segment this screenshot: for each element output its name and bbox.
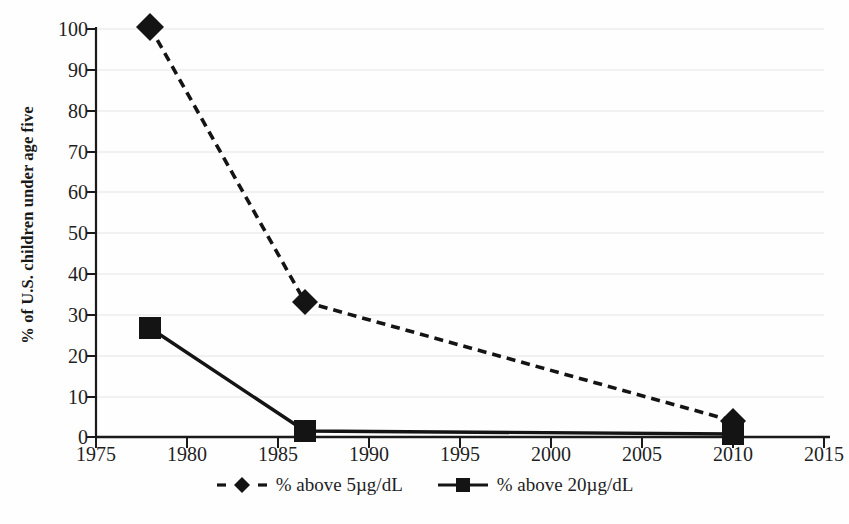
gridlines <box>96 29 824 397</box>
y-axis-line <box>87 27 96 438</box>
data-point-diamond <box>136 13 164 41</box>
series-above-5 <box>136 13 746 434</box>
legend-label-above-5: % above 5µg/dL <box>276 474 403 496</box>
x-tick-1990: 1990 <box>349 443 389 466</box>
data-point-square <box>294 420 316 442</box>
x-tick-1995: 1995 <box>440 443 480 466</box>
legend-label-above-20: % above 20µg/dL <box>497 474 634 496</box>
data-point-diamond <box>292 289 318 315</box>
series-above-20 <box>139 317 744 445</box>
x-tick-1975: 1975 <box>76 443 116 466</box>
x-tick-2010: 2010 <box>713 443 753 466</box>
x-tick-1985: 1985 <box>258 443 298 466</box>
x-tick-2000: 2000 <box>531 443 571 466</box>
legend-marker-square-solid-icon <box>437 475 489 495</box>
x-tick-2005: 2005 <box>622 443 662 466</box>
x-tick-1980: 1980 <box>167 443 207 466</box>
chart-container: % of U.S. children under age five 100 90… <box>0 0 849 524</box>
data-point-square <box>722 423 744 445</box>
legend-marker-diamond-dashed-icon <box>216 475 268 495</box>
legend-item-above-20: % above 20µg/dL <box>437 474 634 496</box>
data-point-square <box>139 317 161 339</box>
legend-item-above-5: % above 5µg/dL <box>216 474 403 496</box>
x-tick-2015: 2015 <box>804 443 844 466</box>
chart-legend: % above 5µg/dL % above 20µg/dL <box>0 474 849 496</box>
